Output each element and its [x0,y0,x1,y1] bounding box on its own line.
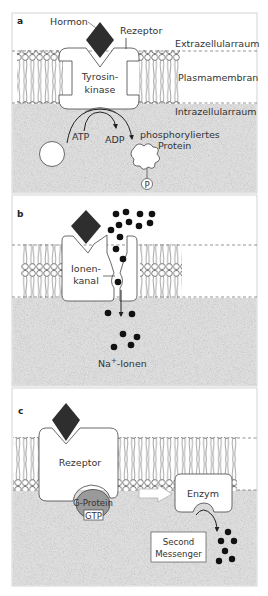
sodium-ions-label: Na+-Ionen [98,357,147,369]
panel-a: a Hormon Rezeptor Extrazellularraum Plas… [12,13,259,193]
atp-label: ATP [72,131,90,142]
receptor-label-c: Rezeptor [59,457,101,468]
intracellular-label: Intrazellularraum [175,106,257,117]
enzyme-label: Enzym [187,488,219,499]
second-messenger-label-1: Second [163,537,195,547]
membrane-right [139,50,180,104]
panel-b: b Ionen- kanal Na+-Ionen [12,195,257,386]
phosphate-label: P [144,180,149,190]
ion-channel-label-2: kanal [73,275,99,286]
panel-a-letter: a [17,16,23,26]
ion-channel-label-1: Ionen- [71,263,101,274]
extracellular-label: Extrazellularraum [175,38,259,49]
signal-transduction-figure: a Hormon Rezeptor Extrazellularraum Plas… [0,0,268,596]
phosphorylated-protein-label-2: Protein [158,140,191,151]
adp-label: ADP [105,134,125,145]
panel-c: c Rezeptor G-Protein GTP Enzym Second Me… [12,388,257,586]
receptor-label: Rezeptor [120,25,162,36]
phosphorylated-protein-label-1: phosphoryliertes [140,129,220,140]
substrate-protein-icon [40,142,65,167]
membrane-label: Plasmamembran [178,72,258,83]
membrane-right-b [140,244,182,298]
tyrosine-kinase-label-1: Tyrosin- [81,71,119,82]
panel-c-letter: c [18,406,23,416]
gtp-label: GTP [85,511,102,521]
hormone-label: Hormon [50,16,88,27]
g-protein-label: G-Protein [73,498,113,508]
membrane-left-c [13,437,40,491]
panel-b-letter: b [17,209,24,219]
membrane-left [17,50,63,104]
second-messenger-label-2: Messenger [155,549,202,559]
tyrosine-kinase-label-2: kinase [85,84,116,95]
membrane-left-b [21,244,63,298]
